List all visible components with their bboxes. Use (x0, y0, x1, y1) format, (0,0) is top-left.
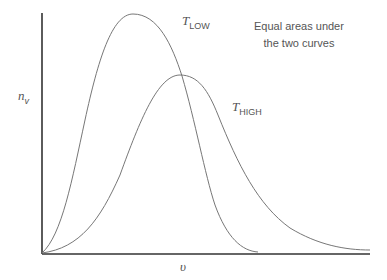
annotation-line-2: the two curves (254, 35, 344, 52)
curve-label-t-low: TLOW (182, 13, 210, 31)
speed-distribution-diagram: TLOW THIGH Equal areas under the two cur… (0, 0, 387, 280)
x-axis-label: υ (180, 259, 186, 275)
curve-t-high (42, 75, 370, 253)
y-axis-subscript: v (25, 96, 30, 106)
t-high-subscript: HIGH (239, 107, 262, 117)
curve-label-t-high: THIGH (232, 99, 262, 117)
y-axis-label: nv (18, 88, 29, 106)
equal-areas-annotation: Equal areas under the two curves (254, 18, 344, 52)
t-low-subscript: LOW (189, 21, 210, 31)
annotation-line-1: Equal areas under (254, 18, 344, 35)
